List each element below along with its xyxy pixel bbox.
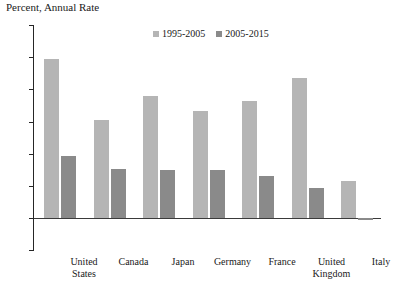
bar-group <box>287 0 337 296</box>
bar-series1 <box>292 78 307 218</box>
x-axis-label-line: States <box>44 268 124 280</box>
bar-series2 <box>259 176 274 218</box>
bar-series2 <box>61 156 76 218</box>
bar-groups <box>33 0 381 296</box>
bar-series1 <box>193 111 208 218</box>
bar-series2 <box>358 218 373 220</box>
x-axis-label-line: Kingdom <box>292 268 372 280</box>
x-axis-label-line: Italy <box>341 256 395 268</box>
bar-series2 <box>111 169 126 218</box>
bar-group <box>336 0 386 296</box>
x-axis-label: Italy <box>341 256 395 268</box>
bar-series2 <box>309 188 324 218</box>
bar-group <box>89 0 139 296</box>
bar-series1 <box>94 120 109 218</box>
bar-series1 <box>44 59 59 218</box>
bar-series1 <box>242 101 257 218</box>
bar-series1 <box>143 96 158 218</box>
bar-series2 <box>160 170 175 218</box>
bar-group <box>188 0 238 296</box>
bar-group <box>39 0 89 296</box>
bar-series1 <box>341 181 356 218</box>
bar-series2 <box>210 170 225 218</box>
bar-group <box>237 0 287 296</box>
bar-group <box>138 0 188 296</box>
